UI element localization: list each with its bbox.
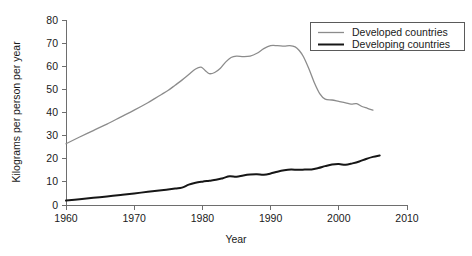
y-axis-ticks: 01020304050607080 — [46, 14, 66, 211]
x-tick-label: 1990 — [259, 212, 283, 224]
y-tick-label: 50 — [46, 83, 58, 95]
x-tick-label: 2000 — [327, 212, 351, 224]
y-tick-label: 80 — [46, 14, 58, 26]
y-tick-label: 20 — [46, 152, 58, 164]
x-tick-label: 2010 — [395, 212, 419, 224]
x-tick-label: 1980 — [191, 212, 215, 224]
legend: Developed countries Developing countries — [311, 23, 465, 51]
x-axis-ticks: 196019701980199020002010 — [54, 205, 419, 224]
y-tick-label: 0 — [52, 199, 58, 211]
y-tick-label: 10 — [46, 175, 58, 187]
y-tick-label: 60 — [46, 60, 58, 72]
y-tick-label: 40 — [46, 106, 58, 118]
x-tick-label: 1960 — [54, 212, 78, 224]
y-axis-title: Kilograms per person per year — [10, 41, 22, 183]
series-line-developing-countries — [66, 156, 380, 201]
legend-label-developed: Developed countries — [352, 26, 448, 38]
series-line-developed-countries — [66, 45, 373, 143]
line-chart: 01020304050607080 1960197019801990200020… — [0, 0, 472, 256]
x-tick-label: 1970 — [123, 212, 147, 224]
y-tick-label: 30 — [46, 129, 58, 141]
legend-label-developing: Developing countries — [352, 38, 450, 50]
x-axis-title: Year — [225, 233, 247, 245]
chart-container: 01020304050607080 1960197019801990200020… — [0, 0, 472, 256]
y-tick-label: 70 — [46, 37, 58, 49]
